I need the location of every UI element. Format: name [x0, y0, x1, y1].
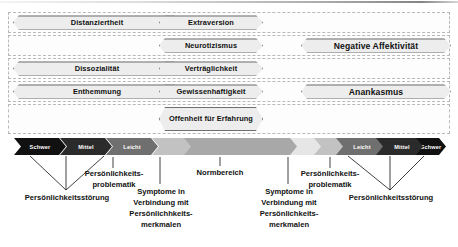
trait-chip-distanziertheit[interactable]: Distanziertheit: [13, 15, 181, 30]
normal-band-overlay: [14, 138, 446, 155]
trait-chip-extraversion[interactable]: Extraversion: [159, 15, 263, 30]
diagram-canvas: Distanziertheit Extraversion Neurotizism…: [0, 0, 458, 247]
table-row: Dissozialität Verträglichkeit: [8, 58, 450, 79]
trait-chip-gewissenhaftigkeit[interactable]: Gewissenhaftigkeit: [159, 84, 263, 99]
table-row: Distanziertheit Extraversion: [8, 12, 450, 33]
caption-left-persoenlichkeitsstoerung: Persönlichkeitsstörung: [4, 192, 130, 203]
table-row: Offenheit für Erfahrung: [8, 104, 450, 134]
caption-right-persoenlichkeitsstoerung: Persönlichkeitsstörung: [328, 192, 454, 203]
table-row: Neurotizismus Negative Affektivität: [8, 35, 450, 56]
trait-matrix: Distanziertheit Extraversion Neurotizism…: [8, 12, 450, 136]
caption-right-persoenlichkeitsproblematik: Persönlichkeits- problematik: [296, 168, 364, 190]
top-divider-rule: [0, 1, 458, 3]
normbereich-band: [184, 138, 284, 155]
trait-chip-neurotizismus[interactable]: Neurotizismus: [159, 38, 263, 53]
trait-chip-offenheit-fuer-erfahrung[interactable]: Offenheit für Erfahrung: [159, 107, 263, 131]
caption-normbereich: Normbereich: [186, 167, 254, 178]
trait-chip-dissozialitaet[interactable]: Dissozialität: [13, 61, 181, 76]
caption-right-symptome: Symptome in Verbindung mit Persönlichkei…: [252, 186, 326, 230]
trait-chip-vertraeglichkeit[interactable]: Verträglichkeit: [159, 61, 263, 76]
trait-chip-negative-affektivitaet[interactable]: Negative Affektivität: [301, 38, 451, 53]
trait-chip-enthemmung[interactable]: Enthemmung: [13, 84, 181, 99]
table-row: Enthemmung Gewissenhaftigkeit Anankasmus: [8, 81, 450, 102]
trait-chip-anankasmus[interactable]: Anankasmus: [301, 84, 451, 99]
caption-left-symptome: Symptome in Verbindung mit Persönlichhke…: [124, 186, 198, 230]
